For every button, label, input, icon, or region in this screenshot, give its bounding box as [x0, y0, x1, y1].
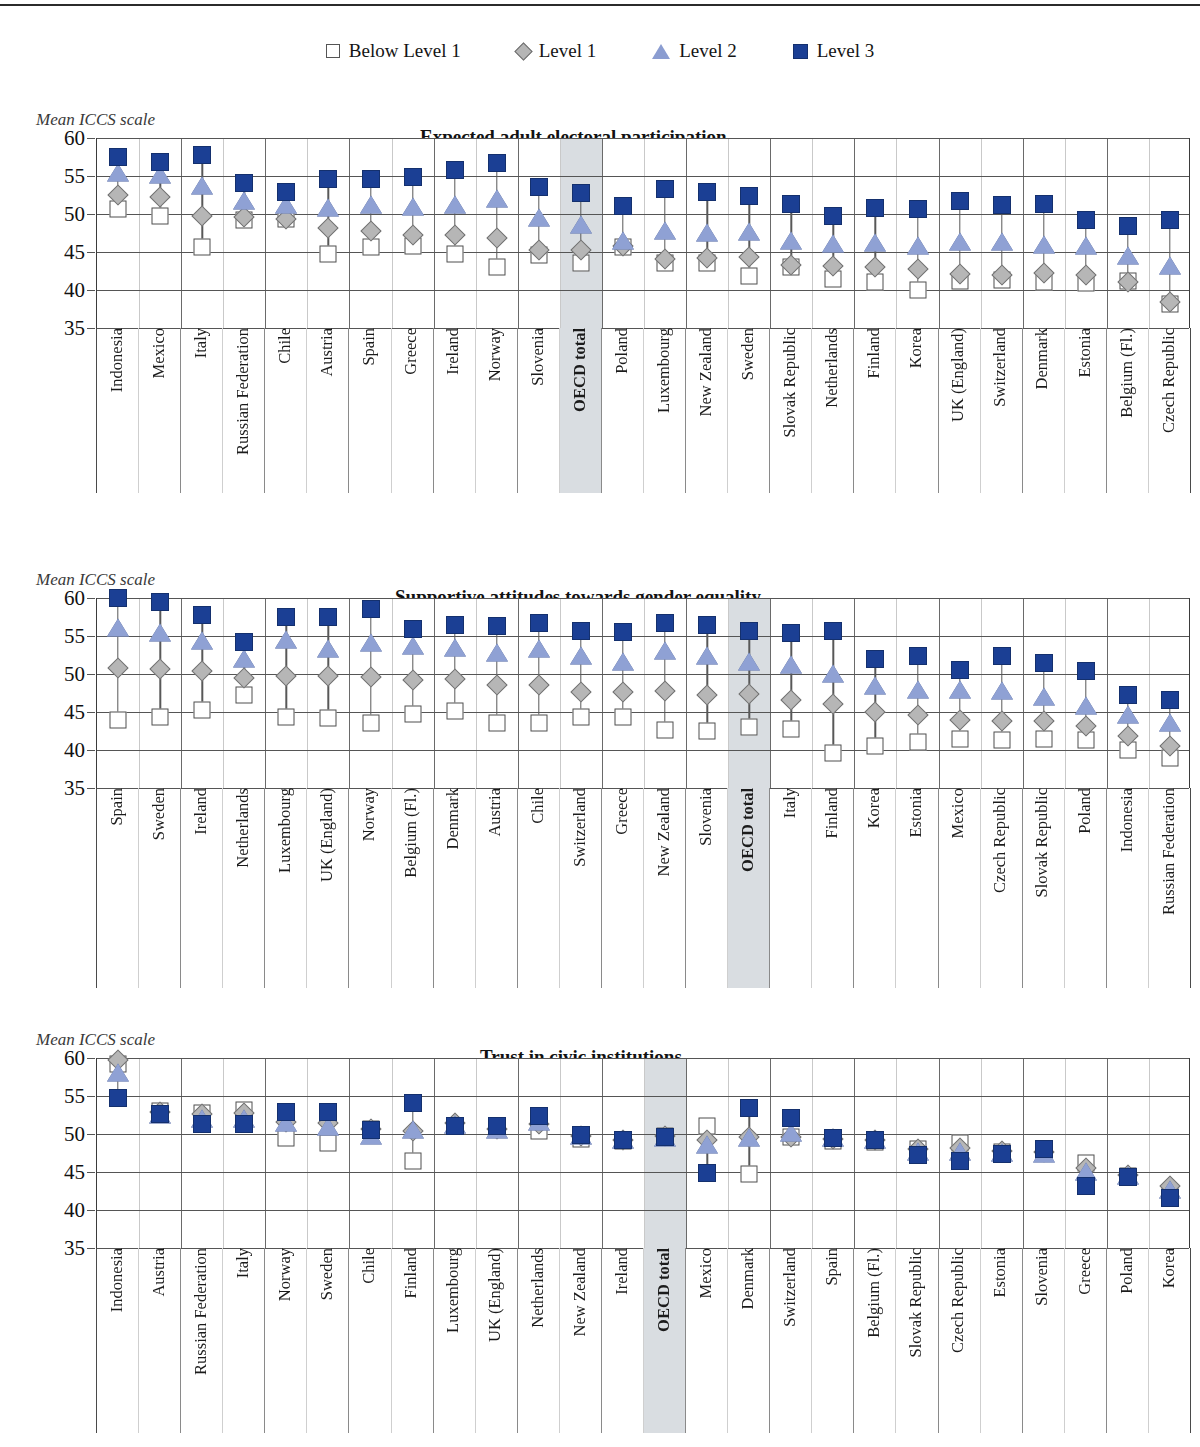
category-label-cell[interactable]: OECD total — [643, 1248, 685, 1433]
category-label-cell[interactable]: UK (England) — [475, 1248, 517, 1433]
square-filled-marker[interactable] — [151, 1105, 169, 1123]
diamond-marker[interactable] — [739, 247, 760, 268]
category-label-cell[interactable]: Ireland — [433, 328, 475, 493]
square-filled-marker[interactable] — [909, 1146, 927, 1164]
category-label-cell[interactable]: Indonesia — [96, 1248, 138, 1433]
category-label-cell[interactable]: Russian Federation — [180, 1248, 222, 1433]
square-filled-marker[interactable] — [951, 1152, 969, 1170]
square-filled-marker[interactable] — [993, 647, 1011, 665]
square-open-marker[interactable] — [194, 239, 211, 256]
square-filled-marker[interactable] — [235, 174, 253, 192]
category-label-cell[interactable]: Russian Federation — [222, 328, 264, 493]
triangle-marker[interactable] — [738, 1129, 760, 1147]
square-open-marker[interactable] — [909, 734, 926, 751]
triangle-marker[interactable] — [1159, 257, 1181, 275]
square-filled-marker[interactable] — [530, 1107, 548, 1125]
square-open-marker[interactable] — [194, 701, 211, 718]
category-label-cell[interactable]: Denmark — [433, 788, 475, 988]
square-filled-marker[interactable] — [614, 623, 632, 641]
square-filled-marker[interactable] — [404, 620, 422, 638]
square-filled-marker[interactable] — [530, 178, 548, 196]
square-filled-marker[interactable] — [446, 161, 464, 179]
square-filled-marker[interactable] — [151, 593, 169, 611]
triangle-marker[interactable] — [191, 177, 213, 195]
diamond-marker[interactable] — [486, 227, 507, 248]
square-filled-marker[interactable] — [277, 183, 295, 201]
category-label-cell[interactable]: Netherlands — [222, 788, 264, 988]
square-open-marker[interactable] — [741, 267, 758, 284]
category-label-cell[interactable]: Estonia — [980, 1248, 1022, 1433]
square-filled-marker[interactable] — [993, 196, 1011, 214]
legend-item[interactable]: Level 2 — [652, 40, 737, 62]
diamond-marker[interactable] — [907, 704, 928, 725]
triangle-marker[interactable] — [191, 632, 213, 650]
category-label-cell[interactable]: Czech Republic — [938, 1248, 980, 1433]
category-label-cell[interactable]: Ireland — [601, 1248, 643, 1433]
square-open-marker[interactable] — [614, 708, 631, 725]
category-label-cell[interactable]: Switzerland — [980, 328, 1022, 493]
square-filled-marker[interactable] — [488, 154, 506, 172]
category-label-cell[interactable]: Slovenia — [685, 788, 727, 988]
square-filled-marker[interactable] — [740, 187, 758, 205]
diamond-marker[interactable] — [570, 682, 591, 703]
square-filled-marker[interactable] — [740, 1099, 758, 1117]
square-filled-marker[interactable] — [1119, 217, 1137, 235]
triangle-marker[interactable] — [528, 208, 550, 226]
category-label-cell[interactable]: New Zealand — [643, 788, 685, 988]
category-label-cell[interactable]: Italy — [180, 328, 222, 493]
square-filled-marker[interactable] — [193, 606, 211, 624]
square-open-marker[interactable] — [783, 721, 800, 738]
triangle-marker[interactable] — [1033, 235, 1055, 253]
triangle-marker[interactable] — [738, 223, 760, 241]
square-filled-marker[interactable] — [866, 650, 884, 668]
square-filled-marker[interactable] — [235, 633, 253, 651]
triangle-marker[interactable] — [864, 676, 886, 694]
diamond-marker[interactable] — [444, 669, 465, 690]
square-filled-marker[interactable] — [656, 614, 674, 632]
category-label-cell[interactable]: Finland — [811, 788, 853, 988]
category-label-cell[interactable]: Estonia — [895, 788, 937, 988]
triangle-marker[interactable] — [949, 680, 971, 698]
square-filled-marker[interactable] — [909, 200, 927, 218]
triangle-marker[interactable] — [1159, 714, 1181, 732]
diamond-marker[interactable] — [781, 689, 802, 710]
square-filled-marker[interactable] — [824, 1129, 842, 1147]
category-label-cell[interactable]: Luxembourg — [264, 788, 306, 988]
category-label-cell[interactable]: Belgium (Fl.) — [1106, 328, 1148, 493]
diamond-marker[interactable] — [697, 684, 718, 705]
category-label-cell[interactable]: Chile — [264, 328, 306, 493]
square-filled-marker[interactable] — [866, 1131, 884, 1149]
diamond-marker[interactable] — [318, 665, 339, 686]
square-filled-marker[interactable] — [319, 170, 337, 188]
square-filled-marker[interactable] — [404, 168, 422, 186]
square-open-marker[interactable] — [699, 723, 716, 740]
square-filled-marker[interactable] — [698, 1164, 716, 1182]
square-filled-marker[interactable] — [656, 180, 674, 198]
category-label-cell[interactable]: Norway — [264, 1248, 306, 1433]
square-open-marker[interactable] — [741, 719, 758, 736]
square-filled-marker[interactable] — [866, 199, 884, 217]
triangle-marker[interactable] — [1117, 705, 1139, 723]
square-filled-marker[interactable] — [277, 1103, 295, 1121]
square-open-marker[interactable] — [320, 1135, 337, 1152]
category-label-cell[interactable]: Chile — [517, 788, 559, 988]
category-label-cell[interactable]: Luxembourg — [643, 328, 685, 493]
category-label-cell[interactable]: Mexico — [938, 788, 980, 988]
category-label-cell[interactable]: Greece — [601, 788, 643, 988]
category-label-cell[interactable]: Spain — [811, 1248, 853, 1433]
square-filled-marker[interactable] — [319, 608, 337, 626]
square-filled-marker[interactable] — [614, 1131, 632, 1149]
triangle-marker[interactable] — [444, 196, 466, 214]
category-label-cell[interactable]: Belgium (Fl.) — [391, 788, 433, 988]
triangle-marker[interactable] — [696, 1136, 718, 1154]
category-label-cell[interactable]: Norway — [348, 788, 390, 988]
square-open-marker[interactable] — [741, 1165, 758, 1182]
triangle-marker[interactable] — [612, 653, 634, 671]
triangle-marker[interactable] — [907, 680, 929, 698]
category-label-cell[interactable]: New Zealand — [685, 328, 727, 493]
square-filled-marker[interactable] — [572, 622, 590, 640]
square-filled-marker[interactable] — [151, 153, 169, 171]
category-label-cell[interactable]: Denmark — [1022, 328, 1064, 493]
triangle-marker[interactable] — [991, 682, 1013, 700]
square-filled-marker[interactable] — [572, 1126, 590, 1144]
